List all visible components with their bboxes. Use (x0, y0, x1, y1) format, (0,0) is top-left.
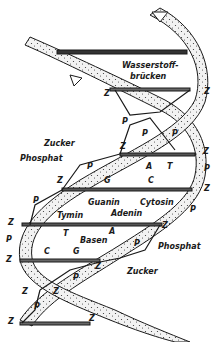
label-phosphate: Phosphat (20, 155, 62, 163)
letter-Z: Z (204, 88, 210, 96)
letter-Z: Z (89, 315, 95, 323)
letter-P: P (134, 240, 140, 248)
letter-A: A (109, 228, 115, 236)
letter-Z: Z (120, 143, 126, 151)
letter-C: C (44, 248, 50, 256)
letter-Z: Z (95, 263, 101, 271)
label-sugar: Zucker (44, 140, 75, 148)
letter-T: T (63, 230, 68, 238)
label-cytosine: Cytosin (140, 199, 174, 207)
label-phosphate-bottom: Phosphat (158, 243, 200, 251)
label-bases: Basen (80, 237, 107, 245)
letter-P: P (190, 206, 196, 214)
label-thymine: Tymin (57, 212, 83, 220)
letter-P: P (33, 197, 39, 205)
label-guanine: Guanin (88, 199, 120, 207)
letter-P: P (6, 236, 12, 244)
label-hydrogen-bonds-line2: brücken (130, 73, 166, 81)
letter-A: A (146, 163, 152, 171)
letter-G: G (73, 248, 80, 256)
letter-Z: Z (53, 288, 59, 296)
label-adenine: Adenin (111, 210, 142, 218)
letter-P: P (34, 303, 40, 311)
letter-Z: Z (57, 177, 63, 185)
letter-T: T (167, 163, 172, 171)
dna-helix-drawing (0, 0, 217, 342)
letter-Z: Z (104, 90, 110, 98)
letter-P: P (87, 163, 93, 171)
letter-Z: Z (203, 148, 209, 156)
letter-P: P (172, 130, 178, 138)
letter-G: G (104, 177, 111, 185)
letter-Z: Z (8, 318, 14, 326)
label-hydrogen-bonds-line1: Wasserstoff- (122, 62, 179, 70)
backbone-strand-2 (19, 8, 207, 342)
letter-P: P (142, 130, 148, 138)
letter-P: P (73, 274, 79, 282)
letter-Z: Z (6, 256, 12, 264)
label-sugar-bottom: Zucker (127, 268, 158, 276)
letter-Z: Z (162, 222, 168, 230)
direction-arrow-left (70, 75, 82, 86)
letter-Z: Z (8, 219, 14, 227)
letter-P: P (122, 118, 128, 126)
letter-Z: Z (22, 288, 28, 296)
letter-P: P (204, 165, 210, 173)
letter-Z: Z (204, 185, 210, 193)
letter-C: C (148, 177, 154, 185)
